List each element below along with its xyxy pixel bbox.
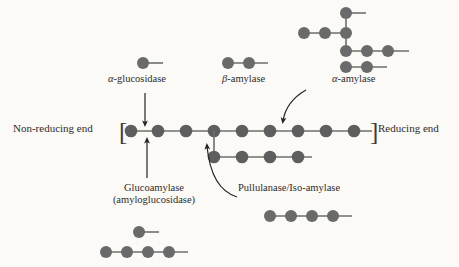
- label-non-reducing-end: Non-reducing end: [13, 122, 93, 135]
- product-pullulanase: [264, 210, 352, 222]
- glucose-unit: [292, 125, 305, 138]
- label-alpha-amylase: α-amylase: [332, 73, 375, 85]
- product-alpha-glucosidase: [137, 57, 163, 69]
- glucose-unit: [340, 61, 352, 73]
- glucose-unit: [142, 246, 154, 258]
- glucose-unit: [361, 61, 373, 73]
- product-beta-amylase: [222, 57, 268, 69]
- bracket-left: [: [119, 119, 127, 144]
- glucose-unit: [340, 45, 352, 57]
- product-glucoamylase: [100, 226, 188, 258]
- glucose-unit: [236, 125, 249, 138]
- glucose-unit: [298, 27, 310, 39]
- glucose-unit: [382, 45, 394, 57]
- glucose-unit: [243, 57, 255, 69]
- glucose-unit: [133, 226, 145, 238]
- glucose-unit: [319, 27, 331, 39]
- label-glucoamylase: Glucoamylase (amyloglucosidase): [93, 182, 215, 207]
- glucose-unit: [306, 210, 318, 222]
- glucose-unit: [180, 125, 193, 138]
- label-reducing-end: Reducing end: [378, 122, 439, 135]
- label-beta-amylase: β-amylase: [222, 73, 265, 85]
- glucose-unit: [137, 57, 149, 69]
- alpha-amylase-text: -amylase: [338, 73, 376, 84]
- glucose-unit: [348, 125, 361, 138]
- glucose-unit: [264, 151, 277, 164]
- beta-amylase-text: -amylase: [227, 73, 265, 84]
- glucose-unit: [100, 246, 112, 258]
- glucoamylase-line-2: (amyloglucosidase): [93, 194, 215, 206]
- glucose-unit: [222, 57, 234, 69]
- glucose-unit: [152, 125, 165, 138]
- alpha-glucosidase-text: -glucosidase: [114, 73, 167, 84]
- product-alpha-amylase: [298, 7, 409, 73]
- label-alpha-glucosidase: α-glucosidase: [108, 73, 166, 85]
- main-chain: [125, 125, 372, 138]
- arrow-alpha-amylase: [283, 90, 306, 121]
- label-pullulanase-isoamylase: Pullulanase/Iso-amylase: [238, 182, 340, 194]
- diagram-canvas: [ ] α-glucosidase β-amylase α-amylase No…: [0, 0, 459, 267]
- glucose-unit: [264, 210, 276, 222]
- glucose-unit: [264, 125, 277, 138]
- glucose-unit: [320, 125, 333, 138]
- glucose-unit: [361, 45, 373, 57]
- glucose-unit: [285, 210, 297, 222]
- glucoamylase-line-1: Glucoamylase: [93, 182, 215, 194]
- glucose-unit: [163, 246, 175, 258]
- glucose-unit: [121, 246, 133, 258]
- glucose-unit: [327, 210, 339, 222]
- glucose-unit: [236, 151, 249, 164]
- glucose-unit: [292, 151, 305, 164]
